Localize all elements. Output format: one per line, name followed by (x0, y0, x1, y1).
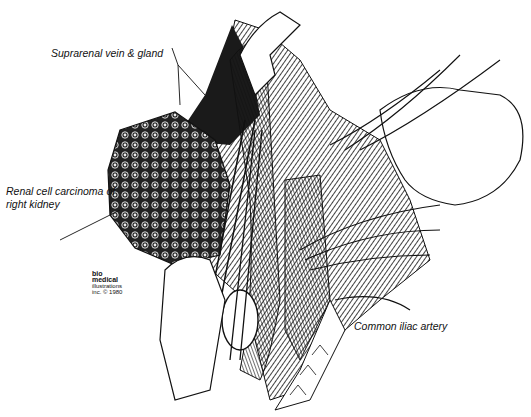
illustrator-credit: bio medical illustrations inc. © 1980 (92, 271, 122, 295)
lower-hand (160, 257, 225, 400)
label-carcinoma-line2: right kidney (6, 198, 60, 210)
credit-line4: inc. © 1980 (92, 289, 122, 295)
label-carcinoma-line1: Renal cell carcinoma of (6, 185, 115, 197)
leader-carcinoma (60, 210, 120, 240)
leader-suprarenal (172, 48, 205, 105)
surgical-illustration (0, 0, 531, 417)
label-iliac: Common iliac artery (354, 320, 447, 332)
label-suprarenal: Suprarenal vein & gland (51, 47, 163, 59)
